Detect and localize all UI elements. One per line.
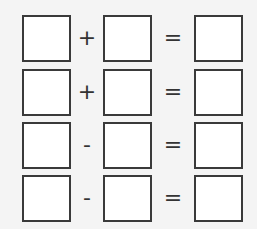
operand-b-box[interactable] bbox=[103, 69, 152, 116]
operand-b-box[interactable] bbox=[103, 175, 152, 222]
operator-sign: + bbox=[72, 69, 102, 115]
operand-b-box[interactable] bbox=[103, 122, 152, 169]
equals-sign: = bbox=[158, 122, 188, 168]
operator-sign: + bbox=[72, 15, 102, 61]
operator-sign: - bbox=[72, 175, 102, 221]
operand-a-box[interactable] bbox=[22, 15, 71, 62]
equals-sign: = bbox=[158, 69, 188, 115]
result-box[interactable] bbox=[194, 175, 243, 222]
result-box[interactable] bbox=[194, 15, 243, 62]
equals-sign: = bbox=[158, 175, 188, 221]
operand-b-box[interactable] bbox=[103, 15, 152, 62]
operator-sign: - bbox=[72, 122, 102, 168]
operand-a-box[interactable] bbox=[22, 122, 71, 169]
equals-sign: = bbox=[158, 15, 188, 61]
result-box[interactable] bbox=[194, 69, 243, 116]
result-box[interactable] bbox=[194, 122, 243, 169]
operand-a-box[interactable] bbox=[22, 69, 71, 116]
operand-a-box[interactable] bbox=[22, 175, 71, 222]
